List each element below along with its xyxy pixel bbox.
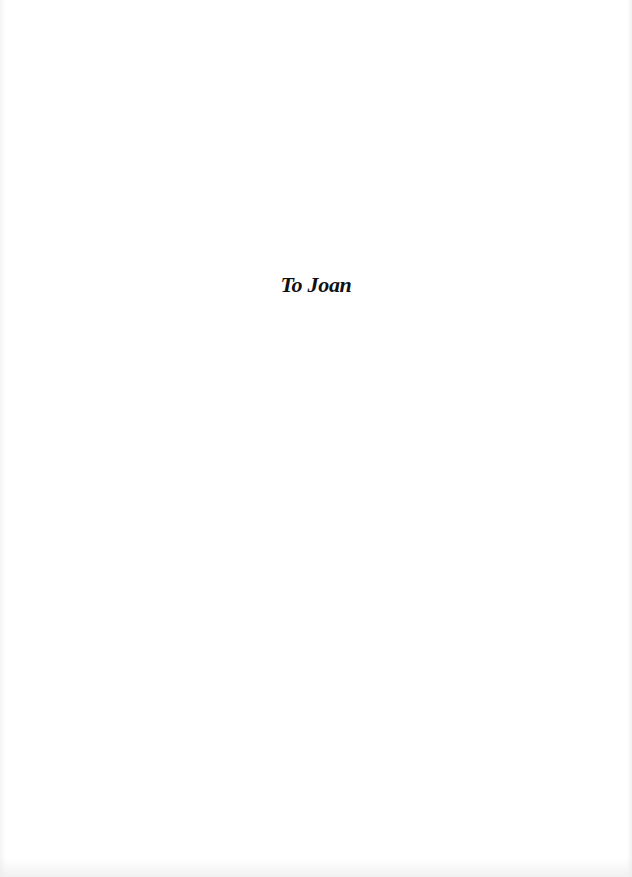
page-gutter-shadow	[0, 0, 6, 877]
page-edge-shadow	[627, 0, 632, 877]
page-bottom-scan-noise	[0, 859, 632, 877]
dedication-text: To Joan	[0, 270, 632, 300]
book-page: To Joan	[0, 0, 632, 877]
